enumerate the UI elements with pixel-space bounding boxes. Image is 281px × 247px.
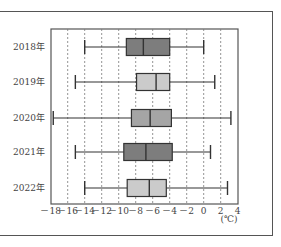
box-2019年	[75, 74, 214, 91]
iqr-box	[137, 74, 170, 91]
boxes	[53, 39, 231, 197]
x-axis-labels: －18－16－14－12－10－8－6－4－2024	[40, 206, 240, 216]
y-axis-labels: 2018年2019年2020年2021年2022年	[13, 41, 45, 193]
x-tick-label: －8	[128, 206, 143, 216]
y-category-label: 2018年	[13, 41, 45, 52]
box-2021年	[75, 144, 210, 161]
y-category-label: 2022年	[13, 182, 45, 193]
box-2018年	[85, 39, 204, 56]
iqr-box	[127, 180, 166, 197]
unit-label: (℃)	[220, 214, 237, 224]
y-category-label: 2019年	[13, 76, 45, 87]
box-2022年	[85, 180, 228, 197]
box-2020年	[53, 110, 231, 127]
boxplot-chart: 2018年2019年2020年2021年2022年 －18－16－14－12－1…	[0, 0, 281, 247]
y-category-label: 2021年	[13, 146, 45, 157]
x-tick-label: －10	[108, 206, 129, 216]
x-tick-label: －6	[145, 206, 160, 216]
x-tick-label: －2	[179, 206, 194, 216]
iqr-box	[131, 110, 171, 127]
iqr-box	[124, 144, 172, 161]
y-category-label: 2020年	[13, 112, 45, 123]
x-tick-label: －4	[162, 206, 177, 216]
iqr-box	[126, 39, 169, 56]
x-tick-label: 0	[201, 206, 207, 216]
